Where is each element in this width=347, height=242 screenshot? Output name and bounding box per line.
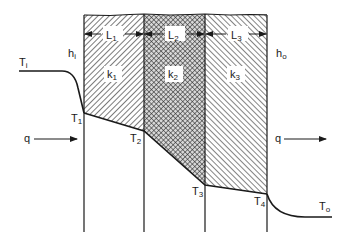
temperature-profile-inside-fluid bbox=[19, 71, 84, 113]
label-t1: T1 bbox=[71, 112, 83, 126]
label-q-left: q bbox=[24, 132, 30, 144]
label-t4: T4 bbox=[254, 195, 266, 209]
wall-top-edge bbox=[84, 14, 267, 16]
composite-wall-diagram: L1 L2 L3 k1 k2 k3 hi ho Ti T1 T2 T3 T4 T… bbox=[0, 0, 347, 242]
label-q-right: q bbox=[275, 132, 281, 144]
label-t2: T2 bbox=[130, 132, 142, 146]
label-t3: T3 bbox=[192, 185, 204, 199]
label-ti: Ti bbox=[19, 56, 28, 70]
label-to: To bbox=[319, 200, 331, 214]
label-ho: ho bbox=[276, 47, 287, 61]
layer-3-fill bbox=[205, 15, 267, 194]
label-hi: hi bbox=[68, 47, 76, 61]
